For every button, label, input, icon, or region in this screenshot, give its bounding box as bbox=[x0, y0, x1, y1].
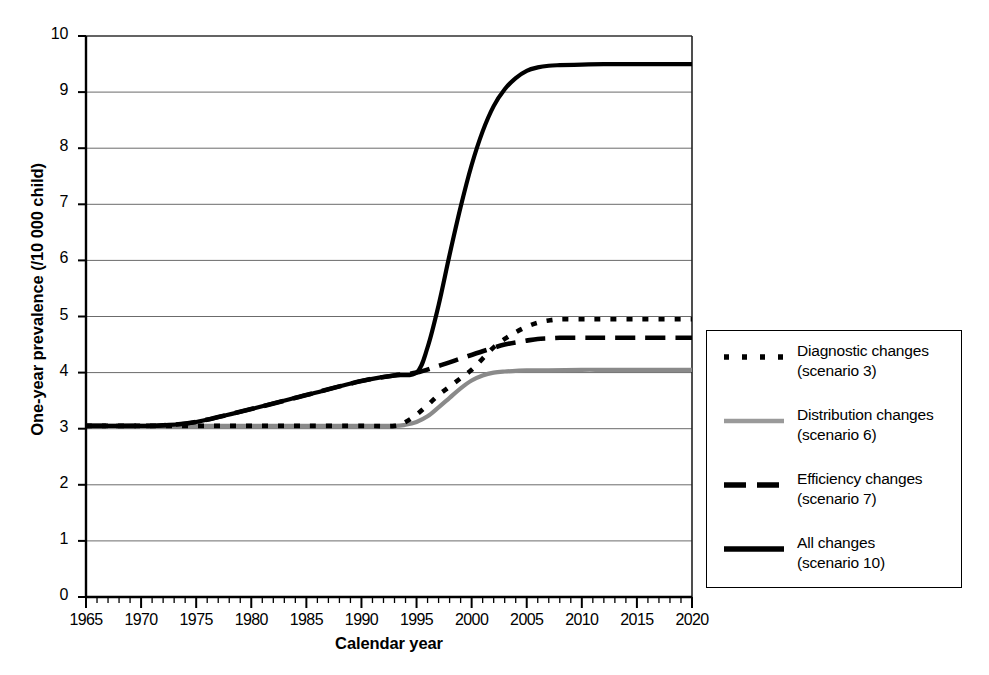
x-tick-label: 2015 bbox=[607, 611, 667, 629]
legend-sublabel-text: (scenario 6) bbox=[797, 425, 967, 445]
legend-label-text: Diagnostic changes bbox=[797, 342, 929, 359]
legend-item-all-changes[interactable]: All changes (scenario 10) bbox=[707, 535, 961, 591]
legend-item-efficiency-changes[interactable]: Efficiency changes (scenario 7) bbox=[707, 471, 961, 527]
x-tick-label: 1970 bbox=[111, 611, 171, 629]
legend-label-distribution-changes: Distribution changes (scenario 6) bbox=[797, 405, 967, 444]
legend-swatch-long-dashed-icon bbox=[723, 479, 785, 491]
legend-label-all-changes: All changes (scenario 10) bbox=[797, 533, 967, 572]
y-tick-label: 1 bbox=[34, 530, 68, 548]
x-tick-label: 1985 bbox=[276, 611, 336, 629]
y-tick-label: 4 bbox=[34, 362, 68, 380]
x-tick-label: 1975 bbox=[166, 611, 226, 629]
y-tick-label: 10 bbox=[34, 25, 68, 43]
x-tick-label: 2020 bbox=[662, 611, 722, 629]
legend-sublabel-text: (scenario 7) bbox=[797, 489, 967, 509]
legend-label-text: Distribution changes bbox=[797, 406, 933, 423]
y-tick-label: 5 bbox=[34, 306, 68, 324]
x-tick-label: 1995 bbox=[387, 611, 447, 629]
y-tick-label: 0 bbox=[34, 586, 68, 604]
x-tick-label: 2010 bbox=[552, 611, 612, 629]
legend-label-text: Efficiency changes bbox=[797, 470, 922, 487]
legend-sublabel-text: (scenario 10) bbox=[797, 553, 967, 573]
chart-figure: One-year prevalence (/10 000 child) 0123… bbox=[0, 0, 989, 675]
x-tick-label: 1990 bbox=[331, 611, 391, 629]
chart-legend: Diagnostic changes (scenario 3) Distribu… bbox=[706, 330, 962, 588]
legend-swatch-solid-icon bbox=[723, 543, 785, 555]
y-tick-label: 8 bbox=[34, 137, 68, 155]
x-axis-title: Calendar year bbox=[86, 634, 692, 653]
legend-label-text: All changes bbox=[797, 534, 875, 551]
legend-label-efficiency-changes: Efficiency changes (scenario 7) bbox=[797, 469, 967, 508]
x-tick-label: 1965 bbox=[56, 611, 116, 629]
y-tick-label: 9 bbox=[34, 81, 68, 99]
series-line-efficiency-changes bbox=[86, 338, 692, 426]
legend-item-diagnostic-changes[interactable]: Diagnostic changes (scenario 3) bbox=[707, 343, 961, 399]
legend-swatch-gray-solid-icon bbox=[723, 415, 785, 427]
x-tick-label: 2000 bbox=[442, 611, 502, 629]
x-tick-label: 1980 bbox=[221, 611, 281, 629]
y-tick-label: 3 bbox=[34, 418, 68, 436]
x-tick-label: 2005 bbox=[497, 611, 557, 629]
legend-sublabel-text: (scenario 3) bbox=[797, 361, 967, 381]
legend-swatch-fine-dashed-icon bbox=[723, 351, 785, 363]
y-tick-label: 6 bbox=[34, 249, 68, 267]
legend-item-distribution-changes[interactable]: Distribution changes (scenario 6) bbox=[707, 407, 961, 463]
legend-label-diagnostic-changes: Diagnostic changes (scenario 3) bbox=[797, 341, 967, 380]
y-tick-label: 7 bbox=[34, 193, 68, 211]
y-tick-label: 2 bbox=[34, 474, 68, 492]
